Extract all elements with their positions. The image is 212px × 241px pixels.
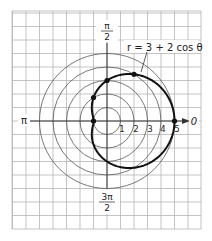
radial-tick-1: 1 <box>119 124 124 134</box>
polar-graph: r = 3 + 2 cos θ π 2 3π 2 π 0 1 2 3 4 5 <box>0 0 212 241</box>
plotted-point <box>91 95 96 100</box>
three-half-pi-denominator: 2 <box>104 203 110 213</box>
radial-tick-2: 2 <box>133 124 138 134</box>
equation-label: r = 3 + 2 cos θ <box>127 42 203 53</box>
three-half-pi-numerator: 3π <box>101 192 113 202</box>
pi-label: π <box>21 115 27 126</box>
half-pi-denominator: 2 <box>104 32 110 42</box>
radial-tick-5: 5 <box>174 124 179 134</box>
plotted-point <box>131 72 136 77</box>
radial-tick-4: 4 <box>160 124 165 134</box>
plotted-point <box>172 118 177 123</box>
radial-tick-3: 3 <box>147 124 152 134</box>
half-pi-numerator: π <box>104 21 110 31</box>
zero-label: 0 <box>191 116 197 127</box>
plotted-point <box>91 118 96 123</box>
plotted-point <box>104 78 109 83</box>
